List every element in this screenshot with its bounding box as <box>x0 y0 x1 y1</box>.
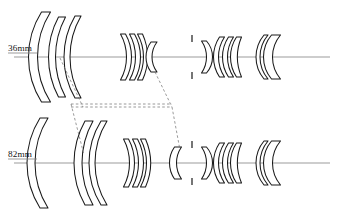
focal-length-label-wide: 36mm <box>8 43 32 53</box>
lens-rows-layer <box>14 12 330 208</box>
lens-group-tele-rear-group-2 <box>214 143 242 183</box>
lens-row-wide <box>14 12 330 102</box>
lens-diagram: 36mm82mm <box>0 0 338 209</box>
lens-row-tele <box>14 118 330 208</box>
lens-group-wide-rear-group-2 <box>214 37 242 77</box>
motion-second-group-upper <box>155 72 172 107</box>
focal-length-label-tele: 82mm <box>8 149 32 159</box>
lens-diagram-canvas: 36mm82mm <box>0 0 338 209</box>
motion-second-group-lower <box>172 107 180 150</box>
